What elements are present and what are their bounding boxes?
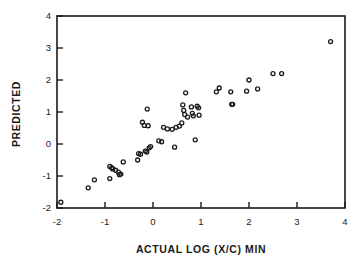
x-tick-label: 3: [284, 217, 310, 227]
data-point: [182, 108, 186, 112]
data-point: [247, 78, 251, 82]
data-point: [229, 90, 233, 94]
plot-frame: [57, 16, 345, 208]
data-point: [271, 72, 275, 76]
data-point: [181, 103, 185, 107]
x-tick-label: 0: [140, 217, 166, 227]
data-point: [280, 72, 284, 76]
plot-canvas: [0, 0, 363, 274]
data-point: [193, 138, 197, 142]
scatter-plot-figure: PREDICTED ACTUAL LOG (X/C) MIN -2-101234…: [0, 0, 363, 274]
x-tick-label: -2: [44, 217, 70, 227]
y-tick-label: -2: [25, 203, 51, 213]
x-tick-label: 4: [332, 217, 358, 227]
data-point: [189, 105, 193, 109]
y-axis-ticks: [57, 16, 63, 208]
data-point: [186, 115, 190, 119]
data-point: [145, 107, 149, 111]
data-point: [329, 40, 333, 44]
y-tick-label: 2: [25, 75, 51, 85]
data-point: [146, 124, 150, 128]
data-point: [86, 186, 90, 190]
data-point: [214, 90, 218, 94]
y-tick-label: 1: [25, 107, 51, 117]
data-point: [160, 140, 164, 144]
data-point: [121, 160, 125, 164]
data-point: [108, 177, 112, 181]
x-tick-label: 1: [188, 217, 214, 227]
data-points: [59, 40, 333, 205]
x-tick-label: -1: [92, 217, 118, 227]
data-point: [136, 158, 140, 162]
data-point: [217, 86, 221, 90]
data-point: [59, 200, 63, 204]
data-point: [197, 113, 201, 117]
x-axis-ticks: [57, 202, 345, 208]
data-point: [184, 91, 188, 95]
data-point: [92, 178, 96, 182]
data-point: [256, 87, 260, 91]
axes-frame: [57, 16, 345, 208]
data-point: [245, 89, 249, 93]
y-tick-label: -1: [25, 171, 51, 181]
data-point: [180, 121, 184, 125]
y-tick-label: 3: [25, 43, 51, 53]
x-tick-label: 2: [236, 217, 262, 227]
data-point: [173, 145, 177, 149]
y-tick-label: 0: [25, 139, 51, 149]
y-tick-label: 4: [25, 11, 51, 21]
data-point: [231, 102, 235, 106]
data-point: [191, 114, 195, 118]
data-point: [165, 127, 169, 131]
